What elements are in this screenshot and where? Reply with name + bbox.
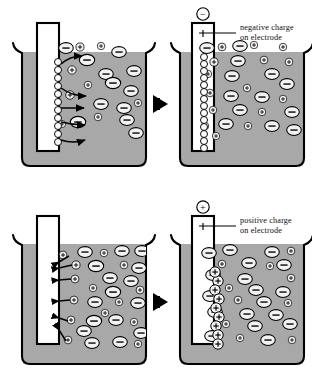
transition-arrow-top: [153, 95, 168, 113]
positive-ion: [134, 99, 141, 106]
positive-ion: [284, 299, 291, 306]
negative-ion: [280, 79, 295, 90]
negative-ion: [129, 128, 144, 139]
negative-ion: [248, 321, 263, 332]
negative-ion: [103, 273, 118, 284]
positive-ion: [209, 106, 216, 113]
positive-ion: [236, 334, 243, 341]
positive-ion: [120, 261, 128, 269]
negative-ion: [127, 66, 142, 77]
negative-ion: [219, 119, 234, 130]
positive-ion: [244, 122, 251, 129]
negative-ion: [242, 258, 257, 269]
positive-ion: [266, 262, 273, 269]
negative-ion: [269, 310, 284, 321]
callout-bottom-line2: on electrode: [240, 226, 282, 235]
negative-ion: [124, 276, 139, 287]
figure-container: − negative charge on electrode: [0, 0, 312, 385]
positive-ion: [94, 113, 101, 120]
negative-ion: [233, 105, 248, 116]
transition-arrow-bottom: [153, 293, 168, 311]
positive-ion: [72, 261, 80, 269]
positive-ion: [287, 247, 295, 255]
negative-ion: [231, 56, 246, 67]
negative-ion: [277, 260, 292, 271]
negative-ion: [265, 247, 280, 258]
positive-ion: [71, 275, 79, 283]
positive-ion: [68, 66, 76, 74]
positive-ion: [97, 42, 104, 49]
negative-ion: [257, 297, 272, 308]
positive-ion: [76, 43, 84, 51]
electrode-double-layer-diagram: − negative charge on electrode: [0, 0, 312, 385]
positive-ion: [89, 284, 96, 291]
panel-bottom-left: [13, 216, 155, 364]
negative-ion: [233, 41, 248, 52]
negative-ion: [265, 121, 280, 132]
positive-ion: [222, 320, 229, 327]
positive-ion: [136, 286, 144, 294]
positive-ion: [287, 274, 295, 282]
negative-ion: [132, 263, 147, 274]
positive-ion: [225, 284, 232, 291]
positive-ion: [210, 58, 218, 66]
negative-ion: [287, 125, 302, 136]
negative-ion: [86, 315, 101, 326]
negative-ion: [261, 335, 276, 346]
positive-ion: [100, 249, 107, 256]
negative-ion: [70, 116, 85, 127]
negative-ion: [223, 245, 238, 256]
negative-ion: [113, 337, 128, 348]
positive-ion: [134, 340, 141, 347]
negative-ion: [120, 115, 135, 126]
surface-beads-top-left: [55, 59, 62, 146]
callout-bottom-line1: positive charge: [240, 216, 292, 225]
electrode-bottom-left: [37, 216, 59, 344]
positive-ion: [250, 41, 257, 48]
negative-ion: [117, 103, 132, 114]
negative-ion: [238, 274, 253, 285]
negative-ion: [115, 246, 130, 257]
positive-ion: [115, 298, 122, 305]
positive-ion: [67, 316, 75, 324]
negative-ion: [249, 285, 264, 296]
positive-ion: [84, 81, 91, 88]
negative-ion: [200, 43, 215, 54]
negative-ion: [225, 71, 240, 82]
negative-ion: [94, 99, 109, 110]
electrode-charge-symbol-bottom: +: [200, 202, 206, 213]
negative-ion: [78, 247, 93, 258]
negative-ion: [285, 107, 300, 118]
positive-ion: [260, 56, 268, 64]
positive-ion: [101, 309, 108, 316]
negative-ion: [240, 309, 255, 320]
electrode-charge-badge-top: −: [197, 8, 209, 20]
positive-ion: [70, 296, 78, 304]
positive-ion: [218, 43, 226, 51]
negative-ion: [77, 326, 92, 337]
negative-ion: [283, 319, 298, 330]
positive-ion: [258, 108, 265, 115]
positive-ion: [279, 95, 286, 102]
positive-ion: [234, 296, 242, 304]
negative-ion: [105, 77, 120, 88]
positive-ion: [279, 43, 286, 50]
negative-ion: [255, 92, 270, 103]
negative-ion: [135, 246, 150, 257]
callout-top-line2: on electrode: [240, 33, 282, 42]
panel-top-left: [13, 23, 155, 166]
electrode-charge-symbol-top: −: [200, 9, 206, 20]
negative-ion: [59, 43, 74, 54]
positive-ion: [218, 260, 226, 268]
negative-ion: [202, 248, 217, 259]
negative-ion: [131, 298, 146, 309]
negative-ion: [109, 315, 124, 326]
negative-ion: [265, 69, 280, 80]
negative-ion: [88, 297, 103, 308]
panel-bottom-right: + positive charge on electrode: [171, 201, 312, 364]
negative-ion: [112, 47, 127, 58]
callout-top-line1: negative charge: [240, 23, 294, 32]
positive-ion: [288, 336, 295, 343]
positive-ion: [285, 58, 293, 66]
negative-ion: [276, 287, 291, 298]
